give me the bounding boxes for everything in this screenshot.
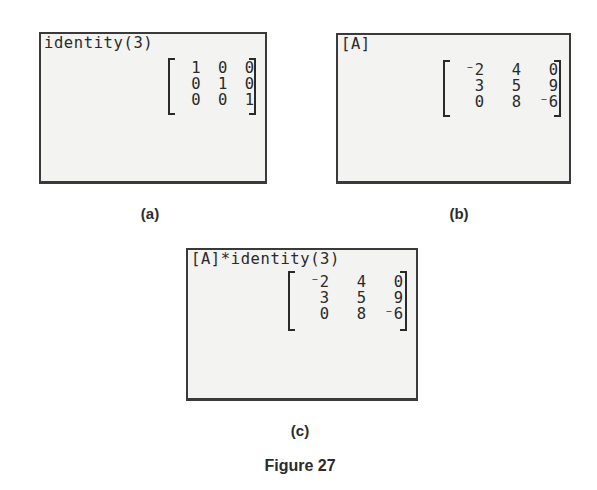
matrix-cell: 0 [292,306,329,322]
matrix-a-result: ⁻2 4 0 3 5 9 0 8 ⁻6 [443,60,561,117]
matrix-cell: 1 [174,60,201,76]
matrix-cell: ⁻6 [521,94,558,110]
matrix-cell: 5 [329,290,366,306]
matrix-cell: 0 [521,62,558,78]
matrix-cell: ⁻2 [292,274,329,290]
command-line: [A] [341,36,371,52]
matrix-row: 0 1 0 [174,76,254,92]
matrix-cell: 8 [329,306,366,322]
matrix-cell: ⁻6 [366,306,403,322]
matrix-cell: 3 [447,78,484,94]
matrix-cell: 5 [484,78,521,94]
matrix-cell: 0 [447,94,484,110]
matrix-cell: 4 [484,62,521,78]
matrix-cell: ⁻2 [447,62,484,78]
product-matrix-result: ⁻2 4 0 3 5 9 0 8 ⁻6 [288,271,407,331]
matrix-row: 0 0 1 [174,92,254,108]
panel-label-a: (a) [120,205,180,222]
matrix-row: ⁻2 4 0 [447,62,559,78]
matrix-cell: 0 [174,92,201,108]
matrix-cell: 1 [201,76,228,92]
matrix-cell: 0 [174,76,201,92]
matrix-cell: 4 [329,274,366,290]
matrix-row: 3 5 9 [292,290,405,306]
matrix-cell: 0 [366,274,403,290]
matrix-cell: 0 [227,76,254,92]
calculator-screen-c: [A]*identity(3) ⁻2 4 0 3 5 9 0 8 ⁻6 [186,248,418,401]
figure-caption: Figure 27 [230,457,370,475]
matrix-cell: 3 [292,290,329,306]
matrix-row: ⁻2 4 0 [292,274,405,290]
matrix-row: 3 5 9 [447,78,559,94]
matrix-cell: 1 [227,92,254,108]
command-line: [A]*identity(3) [191,251,340,267]
matrix-cell: 0 [201,92,228,108]
panel-label-c: (c) [270,422,330,439]
matrix-cell: 8 [484,94,521,110]
matrix-cell: 0 [201,60,228,76]
calculator-screen-b: [A] ⁻2 4 0 3 5 9 0 8 ⁻6 [336,33,571,184]
identity-matrix-result: 1 0 0 0 1 0 0 0 1 [168,58,256,115]
command-line: identity(3) [44,35,153,51]
panel-label-b: (b) [429,205,489,222]
matrix-cell: 9 [366,290,403,306]
calculator-screen-a: identity(3) 1 0 0 0 1 0 0 0 1 [39,32,267,184]
matrix-row: 0 8 ⁻6 [447,94,559,110]
matrix-row: 1 0 0 [174,60,254,76]
matrix-row: 0 8 ⁻6 [292,306,405,322]
matrix-cell: 9 [521,78,558,94]
matrix-cell: 0 [227,60,254,76]
